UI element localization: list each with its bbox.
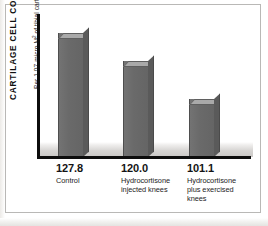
bar-front-face [189, 99, 214, 157]
bar-front-face [58, 33, 83, 157]
category-line: injected knees [121, 185, 195, 194]
bar-value-label: 120.0 [121, 162, 195, 174]
x-axis-baseline [37, 156, 251, 159]
plot-area: CARTILAGE CELL COUNTS Per 1.07 micro M2 … [0, 0, 268, 226]
y-axis-label: CARTILAGE CELL COUNTS Per 1.07 micro M2 … [9, 0, 35, 107]
y-axis-line [37, 14, 40, 159]
chart-title: CARTILAGE CELL COUNTS [9, 0, 19, 100]
bar-category-label: Hydrocortisone injected knees [121, 176, 195, 194]
category-line: Hydrocortisone [121, 176, 195, 185]
bar-side-face [148, 56, 154, 157]
bar-hydrocortisone-exercised [189, 99, 214, 157]
category-line: knees [187, 194, 261, 203]
bar-hydrocortisone-injected [123, 61, 148, 157]
category-label-hydrocortisone-exercised: 101.1 Hydrocortisone plus exercised knee… [187, 162, 261, 204]
category-line: Hydrocortisone [187, 176, 261, 185]
bar-side-face [214, 94, 220, 157]
category-line: Control [56, 176, 130, 185]
bar-control [58, 33, 83, 157]
category-line: plus exercised [187, 185, 261, 194]
category-label-control: 127.8 Control [56, 162, 130, 185]
chart-figure: CARTILAGE CELL COUNTS Per 1.07 micro M2 … [0, 0, 268, 226]
bar-front-face [123, 61, 148, 157]
bar-value-label: 127.8 [56, 162, 130, 174]
bar-category-label: Control [56, 176, 130, 185]
bar-value-label: 101.1 [187, 162, 261, 174]
category-label-hydrocortisone-injected: 120.0 Hydrocortisone injected knees [121, 162, 195, 194]
bar-category-label: Hydrocortisone plus exercised knees [187, 176, 261, 204]
bar-side-face [83, 28, 89, 157]
